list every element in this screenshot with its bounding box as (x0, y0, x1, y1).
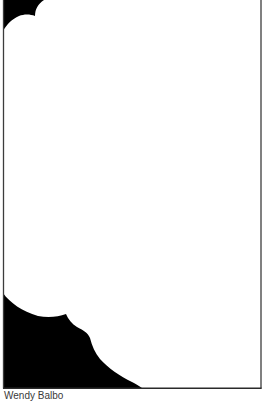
artwork-illustration (0, 0, 263, 390)
artist-credit: Wendy Balbo (4, 390, 63, 402)
